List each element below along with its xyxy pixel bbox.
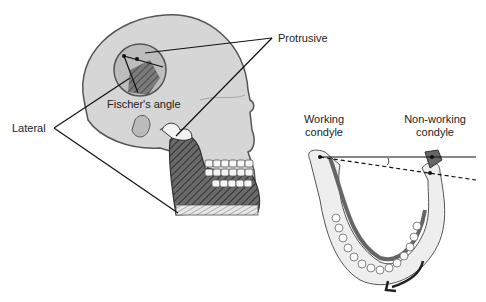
skull-illustration [83,15,260,215]
teeth-lateral [205,160,253,187]
label-fischers-angle: Fischer's angle [107,98,181,111]
label-lateral: Lateral [12,122,46,135]
label-protrusive: Protrusive [278,32,328,45]
dashed-rotation-line [320,157,476,180]
label-non-working-condyle: Non-working condyle [398,113,472,139]
angle-arc [387,158,389,165]
mandible-occlusal-illustration [309,150,476,291]
label-working-condyle: Working condyle [295,113,353,139]
diagram-canvas [0,0,486,302]
